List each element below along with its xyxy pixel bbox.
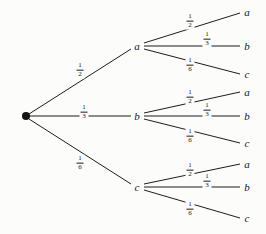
prob-b-to-a: 1 2: [186, 89, 195, 106]
leaf-b-a: a: [244, 87, 250, 98]
prob-c-to-c: 1 6: [186, 201, 195, 218]
leaf-a-b: b: [244, 41, 250, 52]
node-level1-c: c: [135, 182, 140, 193]
leaf-b-b: b: [244, 111, 250, 122]
root-node-dot: [22, 112, 30, 120]
prob-root-to-c: 1 6: [76, 155, 85, 172]
prob-root-to-b: 1 3: [80, 104, 89, 121]
prob-b-to-b: 1 3: [203, 102, 212, 119]
prob-c-to-a: 1 2: [186, 162, 195, 179]
leaf-c-b: b: [244, 182, 250, 193]
prob-b-to-c: 1 6: [186, 128, 195, 145]
node-level1-a: a: [134, 41, 140, 52]
probability-tree-diagram: a b c 1 2 1 3 1 6 a b c 1 2 1 3 1 6 a b …: [0, 0, 266, 234]
edge-root-to-c: [29, 119, 131, 184]
prob-a-to-b: 1 3: [203, 31, 212, 48]
leaf-c-a: a: [244, 159, 250, 170]
prob-a-to-a: 1 2: [186, 13, 195, 30]
prob-c-to-b: 1 3: [203, 173, 212, 190]
node-level1-b: b: [134, 111, 140, 122]
prob-root-to-a: 1 2: [76, 62, 85, 79]
leaf-a-c: c: [245, 69, 250, 80]
prob-a-to-c: 1 6: [186, 57, 195, 74]
leaf-a-a: a: [244, 7, 250, 18]
tree-edges-canvas: [0, 0, 266, 234]
leaf-c-c: c: [245, 213, 250, 224]
leaf-b-c: c: [245, 138, 250, 149]
